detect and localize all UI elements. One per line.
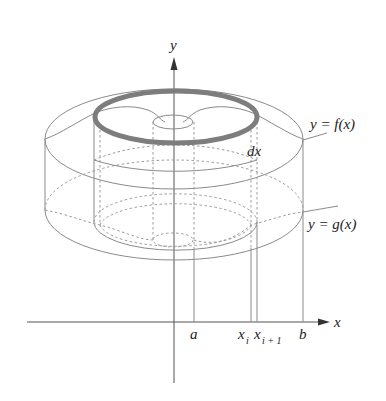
shell-top-ring (95, 91, 257, 143)
f-leader-line (303, 133, 327, 140)
g-leader-line (303, 206, 338, 212)
y-axis-label: y (168, 37, 177, 53)
shell-method-diagram: y x y = f(x) y = g(x) dx a b x i x i + 1 (0, 0, 386, 401)
top-surface-profile (45, 107, 327, 140)
xi1-label: x (253, 326, 261, 342)
xi1-sub-label: i + 1 (262, 335, 282, 346)
dx-label: dx (247, 143, 262, 159)
f-curve-label: y = f(x) (308, 116, 355, 133)
axes (27, 57, 330, 383)
y-axis-arrow-icon (171, 57, 178, 70)
inner-bottom-ellipse (153, 233, 193, 247)
xi-sub-label: i (246, 335, 249, 346)
x-axis-label: x (333, 314, 341, 330)
b-label: b (299, 326, 307, 342)
g-curve-label: y = g(x) (306, 216, 356, 233)
a-label: a (190, 326, 198, 342)
inner-top-ellipse (153, 115, 193, 129)
xi-label: x (237, 326, 245, 342)
x-axis-arrow-icon (318, 319, 330, 326)
